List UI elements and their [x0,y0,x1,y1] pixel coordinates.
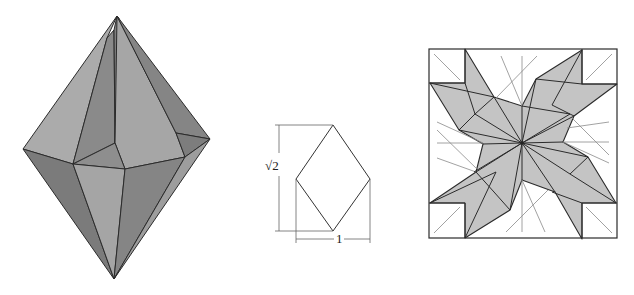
width-label: 1 [336,231,343,246]
rhombus-diagram: √2 1 [265,125,370,246]
crease-pattern [429,49,617,239]
height-label: √2 [265,158,279,173]
center-point [520,141,524,145]
rhombus [296,125,370,231]
polyhedron [23,16,210,279]
figure-canvas: √2 1 [0,0,634,295]
